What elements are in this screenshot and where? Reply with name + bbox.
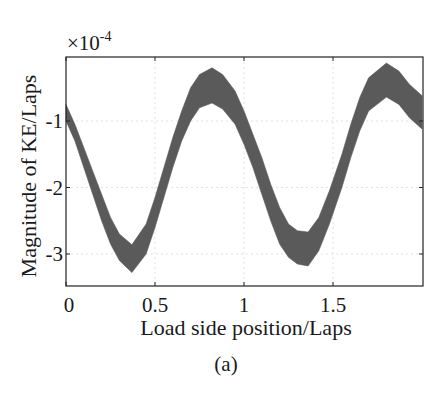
- figure-caption: (a): [214, 352, 237, 376]
- y-tick-label: -2: [46, 176, 64, 200]
- y-tick-label: -1: [46, 109, 64, 133]
- chart-figure: 00.511.5 -1-2-3 ×10-4 Load side position…: [0, 0, 439, 399]
- x-tick-labels: 00.511.5: [64, 293, 346, 317]
- x-tick-label: 1.5: [320, 293, 346, 317]
- y-tick-label: -3: [46, 242, 64, 266]
- x-tick-label: 0: [64, 293, 75, 317]
- x-axis-label: Load side position/Laps: [140, 315, 351, 340]
- y-exponent-label: ×10-4: [67, 29, 112, 55]
- x-tick-label: 0.5: [142, 293, 168, 317]
- y-axis-label: Magnitude of KE/Laps: [16, 75, 41, 278]
- y-tick-labels: -1-2-3: [46, 109, 64, 266]
- x-tick-label: 1: [239, 293, 250, 317]
